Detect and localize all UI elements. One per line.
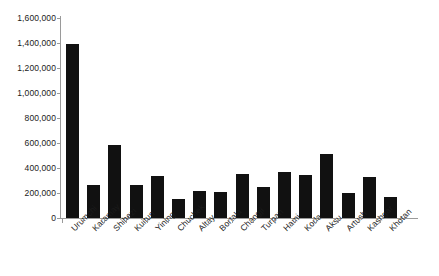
x-axis-tick-mark	[126, 219, 127, 223]
y-axis-tick-label: 1,600,000	[17, 13, 56, 23]
y-axis-tick-mark	[57, 193, 61, 194]
y-axis-tick-mark	[57, 43, 61, 44]
x-axis-tick-mark	[274, 219, 275, 223]
y-axis-tick-label: 600,000	[25, 138, 56, 148]
y-axis-tick-mark	[57, 18, 61, 19]
x-axis-tick-mark	[295, 219, 296, 223]
bar[interactable]	[342, 193, 355, 218]
x-axis-tick-mark	[380, 219, 381, 223]
y-axis-tick-label: 1,000,000	[17, 88, 56, 98]
x-axis-tick-mark	[210, 219, 211, 223]
y-axis-tick-label: 200,000	[25, 188, 56, 198]
bar[interactable]	[320, 154, 333, 218]
y-axis-tick-label: 1,400,000	[17, 38, 56, 48]
y-axis-labels: 0200,000400,000600,000800,0001,000,0001,…	[0, 0, 56, 276]
x-axis-tick-mark	[147, 219, 148, 223]
y-axis-tick-label: 0	[51, 213, 56, 223]
bar[interactable]	[214, 192, 227, 219]
x-axis-tick-mark	[253, 219, 254, 223]
y-axis-tick-label: 400,000	[25, 163, 56, 173]
bar-chart: 0200,000400,000600,000800,0001,000,0001,…	[0, 0, 439, 276]
y-axis-tick-mark	[57, 218, 61, 219]
plot-area	[60, 18, 418, 218]
x-axis-tick-mark	[338, 219, 339, 223]
x-axis-tick-mark	[83, 219, 84, 223]
y-axis-tick-label: 1,200,000	[17, 63, 56, 73]
y-axis-tick-mark	[57, 68, 61, 69]
y-axis-tick-mark	[57, 168, 61, 169]
x-axis-tick-mark	[401, 219, 402, 223]
y-axis-tick-mark	[57, 143, 61, 144]
x-axis-tick-mark	[168, 219, 169, 223]
x-axis-tick-mark	[104, 219, 105, 223]
x-axis-tick-mark	[316, 219, 317, 223]
y-axis-tick-label: 800,000	[25, 113, 56, 123]
x-axis-tick-mark	[62, 219, 63, 223]
x-axis-tick-mark	[189, 219, 190, 223]
x-axis-tick-mark	[232, 219, 233, 223]
y-axis-tick-mark	[57, 118, 61, 119]
y-axis-tick-mark	[57, 93, 61, 94]
bar[interactable]	[66, 44, 79, 218]
bar[interactable]	[299, 175, 312, 218]
x-axis-tick-mark	[359, 219, 360, 223]
